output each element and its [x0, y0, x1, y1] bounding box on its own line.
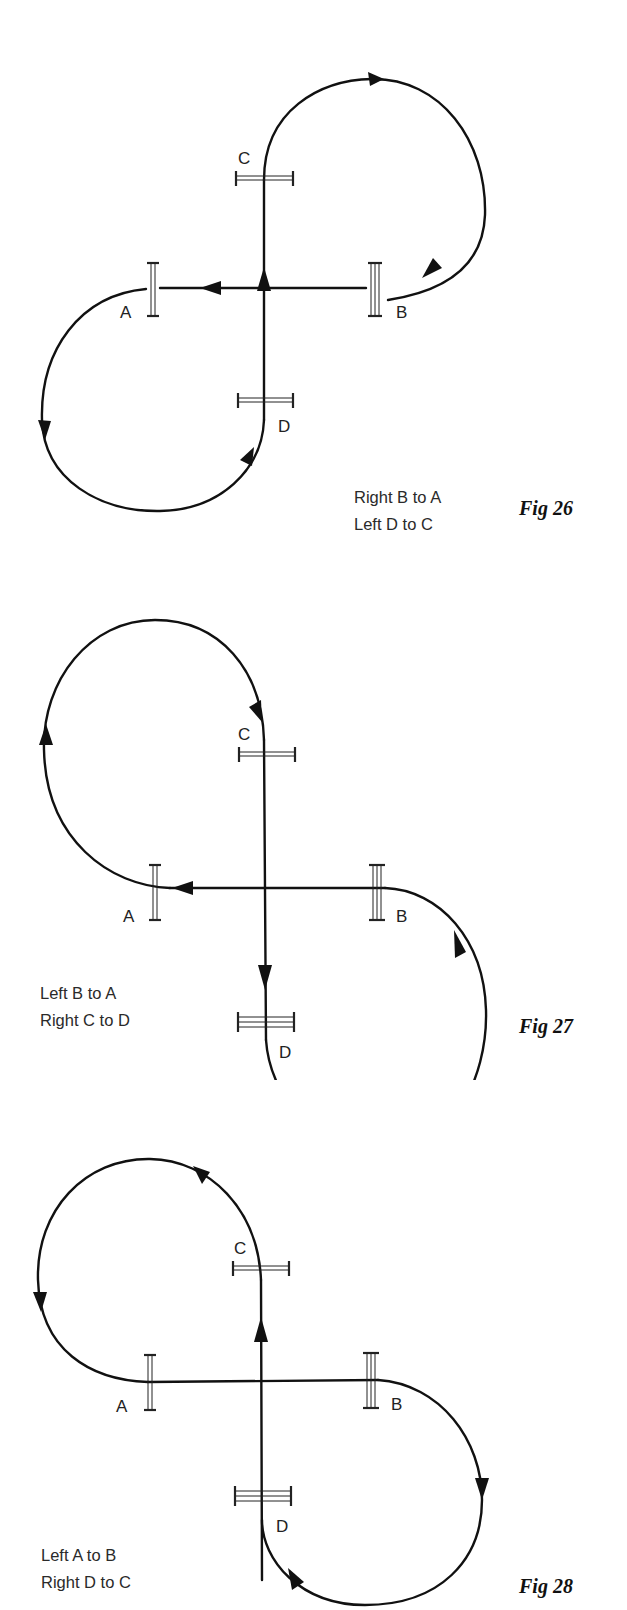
track-vertical: [264, 740, 266, 1040]
switch-label-a: A: [123, 907, 135, 926]
figure-label: Fig 28: [519, 1575, 573, 1598]
track-horizontal: [148, 1380, 378, 1382]
arrow-down-left-icon: [422, 258, 442, 278]
instructions: Left B to A Right C to D: [40, 980, 130, 1034]
switch-a: [147, 263, 159, 316]
track-loop-top-left: [38, 1159, 261, 1382]
arrow-up-icon: [39, 724, 53, 745]
track-loop-bottom-left: [42, 289, 264, 511]
switch-label-b: B: [396, 303, 407, 322]
figure-label: Fig 26: [519, 497, 573, 520]
instructions: Left A to B Right D to C: [41, 1542, 131, 1596]
figure-label: Fig 27: [519, 1015, 573, 1038]
switch-label-d: D: [278, 417, 290, 436]
arrow-down-icon: [258, 965, 272, 990]
arrow-up-icon: [257, 267, 271, 291]
switch-b: [368, 263, 382, 316]
instruction-line: Right C to D: [40, 1007, 130, 1034]
switch-a: [149, 865, 161, 920]
arrow-down-icon: [33, 1292, 47, 1312]
instruction-line: Right D to C: [41, 1569, 131, 1596]
arrow-down-icon: [475, 1478, 489, 1500]
track-loop-bottom-right: [266, 888, 486, 1080]
arrow-right-icon: [368, 72, 384, 86]
switch-label-d: D: [276, 1517, 288, 1536]
instructions: Right B to A Left D to C: [354, 484, 441, 538]
switch-label-d: D: [279, 1043, 291, 1062]
instruction-line: Left B to A: [40, 980, 130, 1007]
arrow-up-icon: [254, 1317, 268, 1342]
switch-label-a: A: [116, 1397, 128, 1416]
switch-label-b: B: [396, 907, 407, 926]
arrow-left-icon: [172, 881, 193, 895]
switch-d: [238, 393, 293, 408]
instruction-line: Left A to B: [41, 1542, 131, 1569]
instruction-line: Right B to A: [354, 484, 441, 511]
figure-28: A B C D Left A to B Right D to C Fig 28: [0, 1080, 627, 1610]
arrow-up-left-icon: [193, 1166, 210, 1184]
arrow-down-right-icon: [249, 700, 262, 722]
arrow-up-right-icon: [240, 447, 254, 466]
track-diagram-28: A B C D: [0, 1080, 627, 1610]
switch-label-c: C: [238, 725, 250, 744]
switch-b: [369, 865, 385, 920]
figure-27: A B C D Left B to A Right C to D Fig 27: [0, 540, 627, 1080]
track-loop-top-left: [44, 620, 264, 888]
switch-d: [235, 1486, 291, 1506]
switch-label-a: A: [120, 303, 132, 322]
instruction-line: Left D to C: [354, 511, 441, 538]
switch-label-b: B: [391, 1395, 402, 1414]
track-loop-bottom-right: [262, 1380, 482, 1605]
track-diagram-26: A B C D: [0, 0, 627, 540]
switch-c: [239, 747, 295, 762]
switch-label-c: C: [238, 149, 250, 168]
switch-label-c: C: [234, 1239, 246, 1258]
figure-26: A B C D Right B to A Left D to C Fig 26: [0, 0, 627, 540]
arrow-left-icon: [200, 281, 221, 295]
arrow-down-icon: [38, 420, 51, 440]
